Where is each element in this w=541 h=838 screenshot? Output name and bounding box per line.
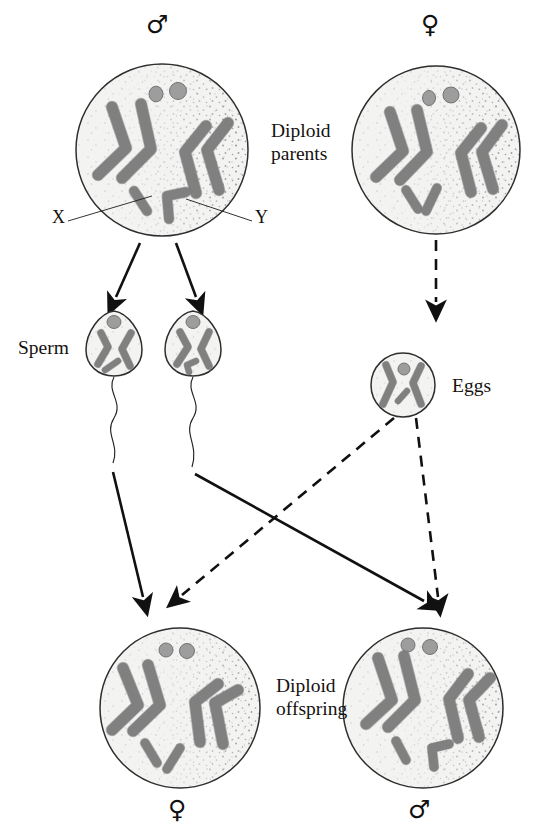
nucleolus bbox=[149, 86, 163, 102]
arrow-male-to-sperm-x bbox=[116, 243, 140, 297]
nucleolus bbox=[398, 363, 410, 375]
nucleolus bbox=[170, 83, 187, 100]
arrow-egg-to-offspring-female bbox=[182, 418, 394, 595]
sperm-tail bbox=[111, 377, 118, 463]
diploid-offspring-label: Diploid offspring bbox=[276, 674, 347, 720]
nucleolus bbox=[443, 87, 459, 103]
nucleolus bbox=[180, 644, 195, 659]
nucleolus bbox=[107, 316, 121, 329]
y-chromosome-label: Y bbox=[255, 207, 268, 228]
arrow-sperm-y-to-offspring-male bbox=[195, 474, 424, 601]
male-symbol-offspring: ♂ bbox=[408, 797, 430, 822]
arrow-egg-to-offspring-male bbox=[416, 418, 438, 597]
male-symbol-parent: ♂ bbox=[146, 12, 168, 37]
female-symbol-offspring: ♀ bbox=[168, 797, 186, 822]
x-chromosome-label: X bbox=[52, 207, 65, 228]
sperm-label: Sperm bbox=[18, 336, 69, 359]
nucleolus bbox=[159, 643, 173, 657]
nucleolus bbox=[423, 91, 436, 106]
sperm-tail bbox=[190, 377, 197, 467]
cell-parent-male[interactable] bbox=[68, 64, 252, 236]
female-symbol-parent: ♀ bbox=[421, 12, 439, 37]
cell-sperm-y[interactable] bbox=[165, 311, 221, 467]
arrow-sperm-x-to-offspring-female bbox=[113, 472, 143, 597]
cell-offspring-female[interactable] bbox=[100, 628, 260, 788]
nucleolus bbox=[423, 640, 438, 655]
diagram-canvas: .cellbody{fill:#f3f3f1;stroke:#2e2e2e;st… bbox=[0, 0, 541, 838]
diploid-parents-label: Diploid parents bbox=[271, 119, 331, 165]
cell-sperm-x[interactable] bbox=[86, 311, 142, 463]
cell-parent-female[interactable] bbox=[352, 66, 520, 234]
arrow-male-to-sperm-y bbox=[176, 243, 196, 297]
nucleolus bbox=[186, 316, 200, 329]
eggs-label: Eggs bbox=[452, 374, 491, 397]
cell-egg-x[interactable] bbox=[371, 353, 435, 417]
cell-offspring-male[interactable] bbox=[343, 628, 503, 788]
